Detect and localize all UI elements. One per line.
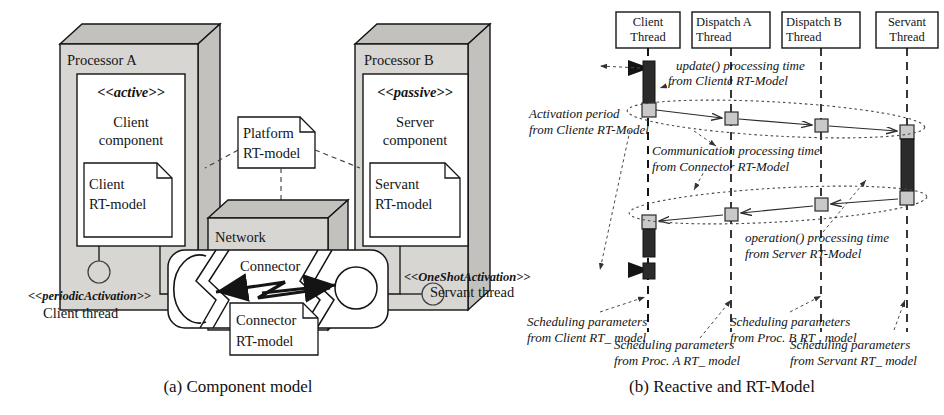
client-rt-model-note: Client RT-model	[84, 163, 172, 237]
servant-rt-model-line1: Servant	[375, 176, 419, 192]
network-top-face	[208, 200, 348, 218]
platform-note-line2: RT-model	[243, 145, 300, 161]
server-component-name-line2: component	[383, 132, 447, 148]
lifeline-dispatch-a-line1: Dispatch A	[696, 15, 752, 29]
msg-dispatch-b-to-dispatch-a	[741, 206, 813, 213]
lifeline-dispatch-a-line2: Thread	[696, 30, 732, 44]
annotation-sched-servant: Scheduling parameters from Servant RT_ m…	[790, 337, 917, 368]
diagram-canvas: Processor A <<active>> Client component …	[0, 0, 944, 415]
caption-reactive-rt-model: (b) Reactive and RT-Model	[629, 377, 815, 396]
lifeline-header-dispatch-a: Dispatch A Thread	[692, 12, 770, 48]
client-component-name-line2: component	[99, 132, 163, 148]
client-activation-bar-update	[643, 61, 655, 103]
connector-provided-ball	[335, 267, 377, 309]
client-rt-model-line1: Client	[89, 176, 124, 192]
annotation-update-time: update() processing time from Cliente RT…	[668, 58, 805, 88]
servant-thread-label: Servant thread	[430, 284, 515, 300]
processor-a-top-face	[60, 24, 220, 44]
connector-label: Connector	[240, 258, 301, 274]
leader-sched-client	[600, 297, 645, 312]
annotation-sched-proc-b-line1: Scheduling parameters	[730, 314, 850, 329]
client-component-stereotype: <<active>>	[97, 84, 165, 100]
client-send-marker	[642, 103, 656, 117]
lifeline-header-dispatch-b: Dispatch B Thread	[782, 12, 860, 48]
annotation-activation-period: Activation period from Cliente RT-Model	[528, 106, 649, 137]
servant-rt-model-note: Servant RT-model	[370, 163, 460, 237]
dispatch-a-request-marker	[725, 112, 738, 125]
msg-dispatch-b-to-servant	[829, 126, 897, 131]
annotation-communication-time-line1: Communication processing time	[652, 143, 820, 158]
annotation-sched-proc-a-line1: Scheduling parameters	[614, 337, 734, 352]
annotation-operation-time-line1: operation() processing time	[745, 230, 889, 245]
leader-sched-proc-a	[700, 300, 731, 338]
platform-note-line1: Platform	[243, 125, 294, 141]
annotation-sched-servant-line2: from Servant RT_ model	[790, 353, 917, 368]
lifeline-client-line1: Client	[633, 15, 664, 29]
client-activation-bar-reply	[643, 229, 655, 257]
servant-rt-model-line2: RT-model	[375, 196, 432, 212]
lifeline-dispatch-b-line1: Dispatch B	[786, 15, 842, 29]
annotation-operation-time: operation() processing time from Server …	[745, 230, 889, 261]
leader-operation-time	[823, 180, 866, 232]
client-port-circle	[88, 261, 110, 283]
panel-sequence-model: Client Thread Dispatch A Thread Dispatch…	[527, 12, 938, 396]
client-receive-marker	[642, 215, 656, 229]
msg-dispatch-a-to-dispatch-b	[739, 119, 812, 125]
connector-rt-model-note: Connector RT-model	[230, 303, 318, 355]
lifeline-servant-line1: Servant	[888, 15, 927, 29]
processor-b-side-face	[468, 24, 490, 310]
servant-reply-marker	[900, 191, 914, 205]
leader-sched-proc-b	[790, 296, 821, 312]
annotation-sched-servant-line1: Scheduling parameters	[790, 337, 910, 352]
annotation-sched-proc-a-line2: from Proc. A RT_ model	[614, 353, 740, 368]
annotation-update-time-line2: from Cliente RT-Model	[668, 73, 788, 88]
connector-note-line1: Connector	[236, 312, 297, 328]
servant-activation-bar-operation	[901, 139, 914, 191]
platform-note-anchor-b	[315, 150, 360, 168]
annotation-activation-period-line2: from Cliente RT-Model	[529, 122, 649, 137]
processor-a-title: Processor A	[67, 52, 137, 68]
annotation-operation-time-line2: from Server RT-Model	[745, 246, 862, 261]
dispatch-b-request-marker	[815, 119, 828, 132]
servant-request-marker	[900, 125, 914, 139]
lifeline-servant-line2: Thread	[889, 30, 925, 44]
figure-root: Processor A <<active>> Client component …	[0, 0, 944, 415]
lifeline-header-servant: Servant Thread	[876, 12, 938, 48]
communication-group-request	[626, 94, 925, 145]
annotation-update-time-line1: update() processing time	[676, 58, 805, 73]
dispatch-b-reply-marker	[815, 198, 828, 211]
lifeline-client-line2: Thread	[630, 30, 666, 44]
msg-client-to-dispatch-a	[656, 110, 722, 118]
server-component-name-line1: Server	[396, 114, 434, 130]
server-component-stereotype: <<passive>>	[377, 84, 453, 100]
leader-activation-bottom	[600, 130, 630, 270]
connector-note-line2: RT-model	[236, 333, 293, 349]
annotation-sched-client-line1: Scheduling parameters	[527, 314, 647, 329]
lifeline-dispatch-b-line2: Thread	[786, 30, 822, 44]
client-activation-bar-next	[643, 263, 655, 279]
lifeline-header-client: Client Thread	[616, 12, 680, 48]
processor-b-top-face	[355, 24, 490, 44]
client-component-name-line1: Client	[113, 114, 148, 130]
client-thread-label: Client thread	[43, 305, 119, 321]
annotation-sched-proc-a: Scheduling parameters from Proc. A RT_ m…	[614, 337, 740, 368]
communication-group-reply	[628, 180, 927, 231]
server-component: <<passive>> Server component Servant RT-…	[363, 74, 468, 246]
panel-component-model: Processor A <<active>> Client component …	[28, 24, 530, 396]
client-thread-stereotype: <<periodicActivation>>	[28, 289, 151, 303]
client-component: <<active>> Client component Client RT-mo…	[77, 74, 185, 246]
dispatch-a-reply-marker	[725, 208, 738, 221]
servant-thread-stereotype: <<OneShotActivation>>	[404, 270, 530, 284]
processor-b-title: Processor B	[364, 52, 434, 68]
network-title: Network	[215, 229, 266, 245]
msg-servant-to-dispatch-b	[831, 199, 898, 204]
leader-sched-servant	[894, 300, 905, 330]
annotation-communication-time-line2: from Connector RT-Model	[652, 159, 790, 174]
msg-dispatch-a-to-client	[659, 215, 723, 221]
annotation-activation-period-line1: Activation period	[528, 106, 620, 121]
client-rt-model-line2: RT-model	[89, 196, 146, 212]
annotation-communication-time: Communication processing time from Conne…	[652, 143, 820, 174]
caption-component-model: (a) Component model	[163, 377, 312, 396]
